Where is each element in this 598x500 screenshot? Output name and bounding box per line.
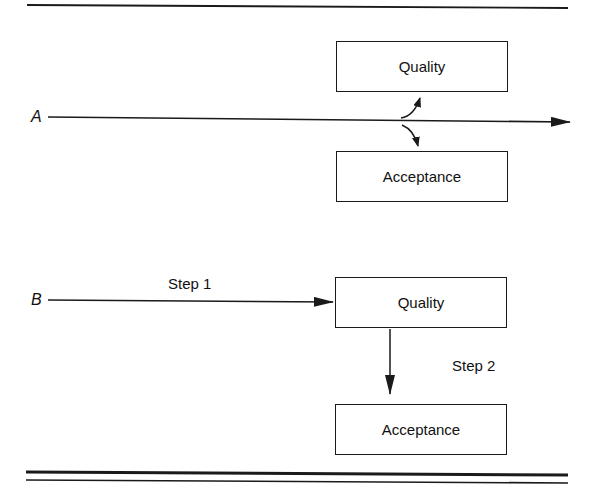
box-a-quality-text: Quality xyxy=(399,58,446,75)
bottom-rule-thick xyxy=(26,472,568,475)
box-a-acceptance-text: Acceptance xyxy=(383,168,461,185)
step2-label: Step 2 xyxy=(452,357,495,374)
flow-b-step1-line xyxy=(48,300,333,302)
curved-arrow-up-icon xyxy=(401,98,420,118)
top-rule xyxy=(27,5,568,8)
curved-arrow-down-icon xyxy=(402,125,418,146)
box-a-quality: Quality xyxy=(336,41,508,92)
box-a-acceptance: Acceptance xyxy=(336,151,508,202)
box-b-acceptance-text: Acceptance xyxy=(382,421,460,438)
box-b-quality-text: Quality xyxy=(398,294,445,311)
flow-a-line xyxy=(48,117,570,122)
box-b-acceptance: Acceptance xyxy=(335,404,507,455)
diagram-lines xyxy=(0,0,598,500)
box-b-quality: Quality xyxy=(335,277,507,328)
step1-label: Step 1 xyxy=(168,275,211,292)
flow-a-label: A xyxy=(31,108,42,126)
flow-b-label: B xyxy=(31,291,42,309)
bottom-rule-thin xyxy=(26,480,568,483)
